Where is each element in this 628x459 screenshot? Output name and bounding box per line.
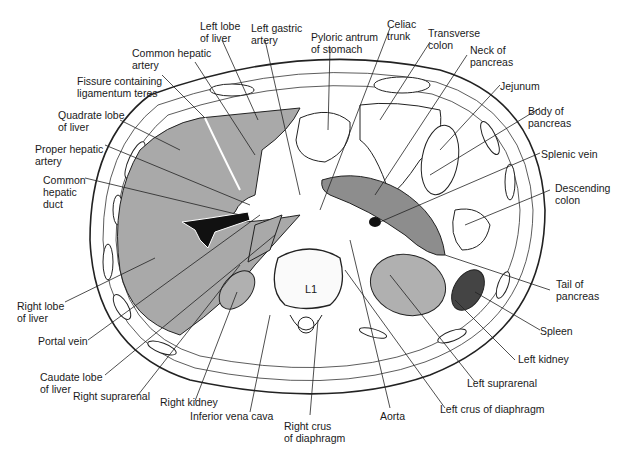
- vertebra-body: [274, 249, 342, 309]
- label-splenic-vein: Splenic vein: [541, 148, 598, 160]
- label-left-suprarenal: Left suprarenal: [467, 377, 537, 389]
- label-left-gastric-artery: Left gastric artery: [251, 22, 302, 46]
- label-left-crus: Left crus of diaphragm: [440, 403, 544, 415]
- label-common-hepatic-artery: Common hepatic artery: [132, 47, 211, 71]
- vertebra-label: L1: [305, 283, 317, 295]
- label-aorta: Aorta: [380, 410, 405, 422]
- label-descending-colon: Descending colon: [555, 182, 610, 206]
- label-neck-pancreas: Neck of pancreas: [470, 44, 513, 68]
- label-inferior-vena-cava: Inferior vena cava: [190, 410, 273, 422]
- label-spleen: Spleen: [540, 325, 573, 337]
- label-body-pancreas: Body of pancreas: [528, 105, 571, 129]
- label-proper-hepatic-artery: Proper hepatic artery: [35, 143, 103, 167]
- label-quadrate-lobe: Quadrate lobe of liver: [58, 109, 125, 133]
- label-right-suprarenal: Right suprarenal: [73, 390, 150, 402]
- label-portal-vein: Portal vein: [38, 335, 88, 347]
- label-jejunum: Jejunum: [500, 80, 540, 92]
- label-pyloric-antrum: Pyloric antrum of stomach: [311, 31, 378, 55]
- label-common-hepatic-duct: Common hepatic duct: [43, 174, 86, 210]
- label-left-kidney: Left kidney: [518, 353, 569, 365]
- label-right-lobe-liver: Right lobe of liver: [17, 300, 64, 324]
- label-celiac-trunk: Celiac trunk: [387, 18, 416, 42]
- label-right-kidney: Right kidney: [160, 396, 218, 408]
- label-tail-pancreas: Tail of pancreas: [556, 278, 599, 302]
- label-fissure-ligamentum-teres: Fissure containing ligamentum teres: [77, 75, 162, 99]
- label-left-lobe-liver: Left lobe of liver: [200, 20, 240, 44]
- label-right-crus: Right crus of diaphragm: [284, 420, 345, 444]
